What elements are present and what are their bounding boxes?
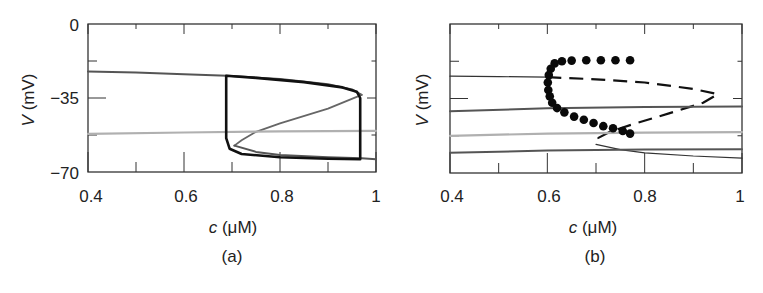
figure: 0 −35 −70 0.4 0.6 0.8 1 c (μM) V (mV) (a… xyxy=(0,0,763,293)
series-line xyxy=(88,131,376,134)
periodic-orbit-marker xyxy=(599,122,608,131)
panel-a-ytick-0: 0 xyxy=(70,16,79,35)
panel-b xyxy=(450,24,742,173)
panel-b-xlabel: c (μM) xyxy=(569,218,618,237)
panel-a-ytick-70: −70 xyxy=(50,164,79,183)
series-line xyxy=(450,76,547,77)
panel-b-xtick-1: 1 xyxy=(735,187,744,206)
panel-b-xtick-0.8: 0.8 xyxy=(633,187,657,206)
panel-b-caption: (b) xyxy=(585,247,606,266)
panel-a-ytick-35: −35 xyxy=(50,89,79,108)
periodic-orbit-marker xyxy=(560,108,569,117)
periodic-orbit-marker xyxy=(544,78,553,87)
periodic-orbit-marker xyxy=(582,56,591,65)
periodic-orbit-marker xyxy=(611,56,620,65)
series-line xyxy=(596,144,742,158)
panel-b-labels: 0.4 0.6 0.8 1 c (μM) V (mV) (b) xyxy=(413,74,745,266)
periodic-orbit-marker xyxy=(558,57,567,66)
panel-a-ylabel: V (mV) xyxy=(19,74,38,127)
series-line xyxy=(450,132,742,136)
periodic-orbit-marker xyxy=(570,112,579,121)
periodic-orbit-marker xyxy=(544,71,553,80)
panel-a-labels: 0 −35 −70 0.4 0.6 0.8 1 c (μM) V (mV) (a… xyxy=(19,16,381,266)
panel-a xyxy=(88,24,376,172)
series-line xyxy=(226,76,360,160)
periodic-orbit-marker xyxy=(553,104,562,113)
panel-b-xtick-0.6: 0.6 xyxy=(537,187,561,206)
panel-a-xtick-0.6: 0.6 xyxy=(174,187,198,206)
periodic-orbit-marker xyxy=(580,115,589,124)
periodic-orbit-marker xyxy=(626,56,635,65)
periodic-orbit-marker xyxy=(626,129,635,138)
series-line xyxy=(450,107,742,112)
periodic-orbit-marker xyxy=(567,56,576,65)
panel-b-xtick-0.4: 0.4 xyxy=(440,187,464,206)
panel-a-xlabel: c (μM) xyxy=(209,218,258,237)
periodic-orbit-marker xyxy=(589,119,598,128)
periodic-orbit-marker xyxy=(597,56,606,65)
panel-a-caption: (a) xyxy=(222,247,243,266)
periodic-orbit-marker xyxy=(609,124,618,133)
series-line xyxy=(234,95,361,146)
panel-b-ylabel: V (mV) xyxy=(413,74,432,127)
periodic-orbit-marker xyxy=(618,127,627,136)
panel-a-xtick-1: 1 xyxy=(371,187,380,206)
panel-a-xtick-0.8: 0.8 xyxy=(270,187,294,206)
panel-a-xtick-0.4: 0.4 xyxy=(79,187,103,206)
series-line xyxy=(450,149,742,153)
